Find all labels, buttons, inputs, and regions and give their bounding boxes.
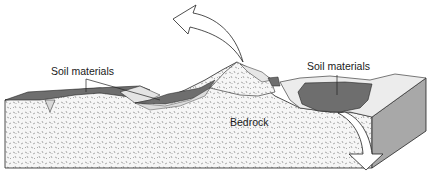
soil-materials-label-right: Soil materials xyxy=(307,61,370,72)
bedrock-label: Bedrock xyxy=(230,117,269,128)
upward-arrow-icon xyxy=(173,5,243,62)
soil-materials-label-left: Soil materials xyxy=(51,66,114,77)
soil-bedrock-block-diagram: Soil materials Soil materials Bedrock xyxy=(0,0,431,172)
